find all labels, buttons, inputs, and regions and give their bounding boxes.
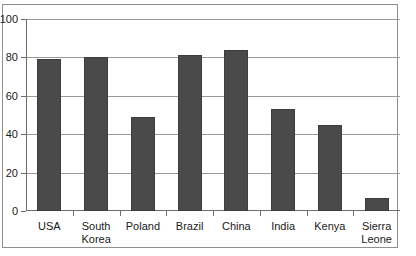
x-axis-tick (73, 211, 74, 216)
plot-area: 020406080100USASouthKoreaPolandBrazilChi… (26, 19, 400, 211)
x-axis-category-label: Kenya (314, 220, 345, 233)
y-axis-tick (21, 57, 26, 58)
y-axis-tick (21, 173, 26, 174)
bar (224, 50, 248, 211)
x-axis-category-label: Brazil (176, 220, 204, 233)
bar (131, 117, 155, 211)
y-axis-tick (21, 19, 26, 20)
chart-frame: 020406080100USASouthKoreaPolandBrazilChi… (2, 4, 398, 248)
x-axis-tick (307, 211, 308, 216)
x-axis-category-label: USA (38, 220, 61, 233)
y-axis-tick (21, 96, 26, 97)
x-axis-category-label: SierraLeone (361, 220, 392, 246)
bar (318, 125, 342, 211)
y-axis-tick-label: 60 (6, 90, 18, 102)
y-axis-tick-label: 20 (6, 167, 18, 179)
x-axis-tick (260, 211, 261, 216)
x-axis-tick (166, 211, 167, 216)
y-axis-tick-label: 40 (6, 128, 18, 140)
y-axis-tick-label: 100 (0, 13, 18, 25)
x-axis-category-label: China (222, 220, 251, 233)
x-axis-tick (120, 211, 121, 216)
y-axis-tick (21, 211, 26, 212)
x-axis-category-label: SouthKorea (81, 220, 110, 246)
y-axis-tick-label: 0 (12, 205, 18, 217)
bar (271, 109, 295, 211)
bar (37, 59, 61, 211)
y-axis-tick-label: 80 (6, 51, 18, 63)
y-axis-tick (21, 134, 26, 135)
bar (365, 198, 389, 211)
bar (84, 57, 108, 211)
bar (178, 55, 202, 211)
bars-group (26, 19, 400, 211)
x-axis-tick (213, 211, 214, 216)
x-axis-category-label: Poland (126, 220, 160, 233)
x-axis-tick (353, 211, 354, 216)
x-axis-category-label: India (271, 220, 295, 233)
